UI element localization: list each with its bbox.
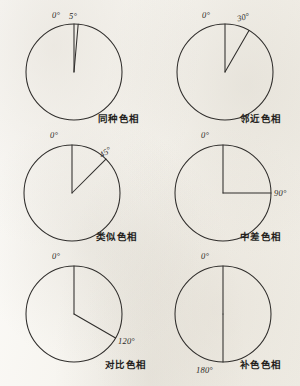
caption-6: 补色色相: [240, 357, 282, 371]
hue-circle-cell-4: 0° 90°: [173, 143, 273, 243]
angle-label-start-4: 0°: [201, 130, 209, 140]
radius-end-5: [74, 314, 116, 338]
caption-2: 邻近色相: [240, 111, 282, 125]
hue-circle-diagram-6: [173, 264, 273, 364]
hue-circle-diagram-5: [24, 264, 124, 364]
caption-4: 中差色相: [240, 229, 282, 243]
caption-3: 类似色相: [96, 229, 138, 243]
hue-circle-cell-5: 0° 120°: [24, 264, 124, 364]
hue-circle-diagram-1: [24, 22, 124, 122]
radius-end-1: [74, 24, 78, 72]
angle-label-start-3: 0°: [50, 130, 58, 140]
angle-label-end-5: 120°: [118, 336, 135, 346]
hue-circle-cell-3: 0° 45°: [22, 143, 122, 243]
hue-circle-diagram-3: [22, 143, 122, 243]
angle-label-start-2: 0°: [202, 10, 210, 20]
angle-label-end-1: 5°: [69, 11, 77, 21]
radius-end-2: [225, 30, 249, 72]
radius-end-3: [72, 159, 106, 193]
hue-circle-cell-2: 0° 30°: [175, 22, 275, 122]
hue-circle-cell-1: 0° 5°: [24, 22, 124, 122]
angle-label-start-1: 0°: [52, 10, 60, 20]
caption-5: 对比色相: [105, 357, 147, 371]
angle-label-end-4: 90°: [274, 188, 287, 198]
angle-label-end-6: 180°: [196, 365, 213, 375]
hue-circle-diagram-4: [173, 143, 273, 243]
hue-circle-diagram-2: [175, 22, 275, 122]
angle-label-start-6: 0°: [201, 251, 209, 261]
hue-circle-figure-grid: 0° 5° 同种色相 0° 30° 邻近色相 0° 45° 类似色相 0° 90…: [0, 0, 300, 386]
hue-circle-cell-6: 0° 180°: [173, 264, 273, 364]
angle-label-start-5: 0°: [52, 251, 60, 261]
caption-1: 同种色相: [98, 111, 140, 125]
